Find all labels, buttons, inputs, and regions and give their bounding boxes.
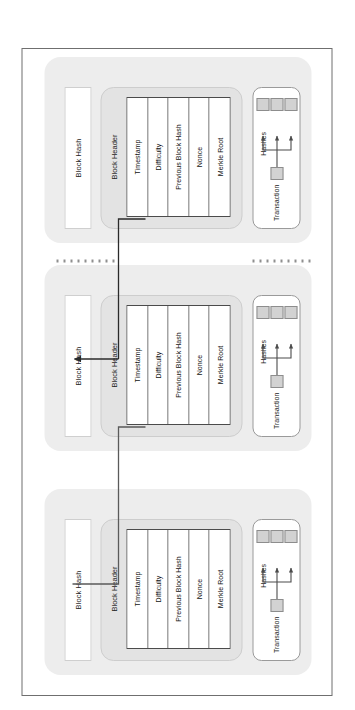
block-hash-label: Block Hash bbox=[73, 347, 82, 386]
header-field-difficulty: Difficulty bbox=[148, 98, 169, 216]
figure-frame: Block Hash Block Header Timestamp Diffic… bbox=[21, 48, 332, 696]
block-header-label: Block Header bbox=[109, 518, 118, 660]
header-field-difficulty: Difficulty bbox=[148, 530, 169, 648]
header-field-previous-block-hash: Previous Block Hash bbox=[168, 98, 189, 216]
header-field-timestamp: Timestamp bbox=[127, 98, 148, 216]
field-label: Difficulty bbox=[154, 144, 161, 171]
block-hash-bar: Block Hash bbox=[64, 519, 91, 661]
block-header-card: Block Header Timestamp Difficulty Previo… bbox=[100, 295, 242, 437]
hash-leaf-node bbox=[284, 306, 297, 319]
field-label: Timestamp bbox=[133, 572, 140, 607]
field-label: Difficulty bbox=[154, 352, 161, 379]
field-label: Nonce bbox=[195, 147, 202, 167]
figure-rotator: Block Hash Block Header Timestamp Diffic… bbox=[0, 0, 355, 710]
hash-leaf-node bbox=[270, 530, 283, 543]
block-header-label: Block Header bbox=[109, 86, 118, 228]
block-header-fields: Timestamp Difficulty Previous Block Hash… bbox=[126, 97, 230, 217]
field-label: Merkle Root bbox=[216, 138, 223, 176]
header-field-previous-block-hash: Previous Block Hash bbox=[168, 530, 189, 648]
hash-leaf-node bbox=[270, 98, 283, 111]
transaction-root-node bbox=[270, 599, 283, 612]
field-label: Difficulty bbox=[154, 576, 161, 603]
header-field-nonce: Nonce bbox=[189, 306, 210, 424]
block-header-fields: Timestamp Difficulty Previous Block Hash… bbox=[126, 529, 230, 649]
header-field-nonce: Nonce bbox=[189, 530, 210, 648]
field-label: Timestamp bbox=[133, 348, 140, 383]
block-hash-bar: Block Hash bbox=[64, 87, 91, 229]
field-label: Timestamp bbox=[133, 140, 140, 175]
field-label: Previous Block Hash bbox=[174, 124, 181, 190]
field-label: Previous Block Hash bbox=[174, 556, 181, 622]
transaction-root-node bbox=[270, 167, 283, 180]
field-label: Previous Block Hash bbox=[174, 332, 181, 398]
field-label: Merkle Root bbox=[216, 346, 223, 384]
hash-leaf-node bbox=[256, 530, 269, 543]
header-field-merkle-root: Merkle Root bbox=[209, 98, 229, 216]
header-field-previous-block-hash: Previous Block Hash bbox=[168, 306, 189, 424]
block-header-label: Block Header bbox=[109, 294, 118, 436]
hash-leaf-node bbox=[256, 98, 269, 111]
header-field-timestamp: Timestamp bbox=[127, 530, 148, 648]
block-header-card: Block Header Timestamp Difficulty Previo… bbox=[100, 87, 242, 229]
header-field-difficulty: Difficulty bbox=[148, 306, 169, 424]
field-label: Nonce bbox=[195, 355, 202, 375]
transaction-panel: Transaction Hashes bbox=[252, 519, 300, 661]
header-field-merkle-root: Merkle Root bbox=[209, 530, 229, 648]
hash-leaf-node bbox=[284, 530, 297, 543]
block-hash-bar: Block Hash bbox=[64, 295, 91, 437]
transaction-panel: Transaction Hashes bbox=[252, 87, 300, 229]
block-card: Block Hash Block Header Timestamp Diffic… bbox=[44, 57, 311, 243]
hash-leaf-node bbox=[284, 98, 297, 111]
block-hash-label: Block Hash bbox=[73, 571, 82, 610]
block-card: Block Hash Block Header Timestamp Diffic… bbox=[44, 265, 311, 451]
header-field-merkle-root: Merkle Root bbox=[209, 306, 229, 424]
transaction-panel: Transaction Hashes bbox=[252, 295, 300, 437]
block-header-fields: Timestamp Difficulty Previous Block Hash… bbox=[126, 305, 230, 425]
header-field-timestamp: Timestamp bbox=[127, 306, 148, 424]
hash-leaf-node bbox=[270, 306, 283, 319]
field-label: Nonce bbox=[195, 579, 202, 599]
block-header-card: Block Header Timestamp Difficulty Previo… bbox=[100, 519, 242, 661]
block-card: Block Hash Block Header Timestamp Diffic… bbox=[44, 489, 311, 675]
field-label: Merkle Root bbox=[216, 570, 223, 608]
hash-leaf-node bbox=[256, 306, 269, 319]
transaction-root-node bbox=[270, 375, 283, 388]
block-hash-label: Block Hash bbox=[73, 139, 82, 178]
header-field-nonce: Nonce bbox=[189, 98, 210, 216]
